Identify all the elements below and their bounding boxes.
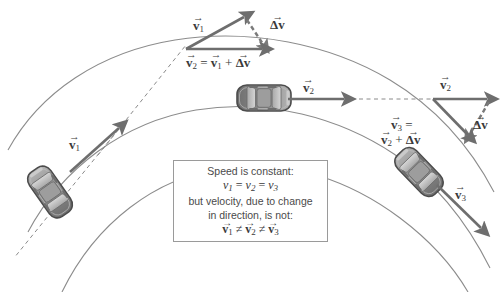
arrow-hat-icon: →	[391, 112, 399, 123]
arrow-hat-icon: →	[440, 72, 448, 83]
label-v2-triangle-right: →v2	[440, 78, 451, 93]
car-position-2	[237, 85, 291, 111]
physics-diagram-canvas: →v1 →v2 →v3 →v1 →Δv →v2 = →v1 + →Δv →v2 …	[0, 0, 501, 292]
arrow-hat-icon: →	[186, 50, 194, 61]
arrow-hat-icon: →	[193, 13, 201, 24]
label-delta-v-top: →Δv	[270, 18, 285, 31]
arrow-hat-icon: →	[270, 12, 286, 23]
arrow-hat-icon: →	[303, 75, 311, 86]
arrow-hat-icon: →	[473, 112, 489, 123]
arrow-hat-icon: →	[245, 218, 252, 228]
info-box-line-1: Speed is constant:	[207, 165, 293, 177]
arrow-hat-icon: →	[268, 218, 275, 228]
arrow-hat-icon: →	[455, 182, 463, 193]
label-v2-car: →v2	[303, 81, 314, 96]
arrow-hat-icon: →	[222, 218, 229, 228]
info-box-scalar-equation: v1 = v2 = v3	[223, 179, 278, 193]
arrow-hat-icon: →	[211, 50, 219, 61]
arrow-hat-icon: →	[69, 132, 77, 143]
arrow-hat-icon: →	[406, 127, 422, 138]
arrow-hat-icon: →	[381, 127, 389, 138]
speed-constant-info-box: Speed is constant: v1 = v2 = v3 but velo…	[173, 160, 328, 242]
label-v1-car: →v1	[69, 138, 80, 153]
delta-v-top-arrow	[247, 20, 263, 44]
info-box-line-3: but velocity, due to change	[188, 195, 312, 207]
label-delta-v-right: →Δv	[473, 118, 488, 131]
car-position-1	[24, 162, 76, 221]
label-v2-equation-top: →v2 = →v1 + →Δv	[186, 56, 250, 71]
label-v3-equation-line2: →v2 + →Δv	[381, 133, 421, 148]
label-v3-car: →v3	[455, 188, 466, 203]
info-box-vector-equation: →v1 ≠ →v2 ≠ →v3	[222, 223, 279, 237]
label-v1-triangle: →v1	[193, 19, 204, 34]
arrow-hat-icon: →	[236, 50, 252, 61]
